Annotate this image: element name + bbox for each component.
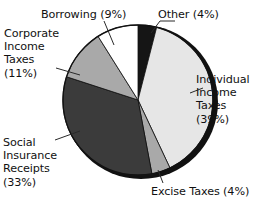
slice-label-social-insurance-receipts: Social Insurance Receipts (33%) xyxy=(3,136,57,189)
slice-label-borrowing: Borrowing (9%) xyxy=(41,8,126,21)
slice-label-excise-taxes: Excise Taxes (4%) xyxy=(151,185,249,198)
pie-chart-figure: Borrowing (9%) Other (4%) Corporate Inco… xyxy=(0,0,277,205)
slice-label-individual-income-taxes: Individual Income Taxes (39%) xyxy=(196,73,250,126)
slice-label-other: Other (4%) xyxy=(158,8,219,21)
slice-label-corporate-income-taxes: Corporate Income Taxes (11%) xyxy=(4,27,59,80)
